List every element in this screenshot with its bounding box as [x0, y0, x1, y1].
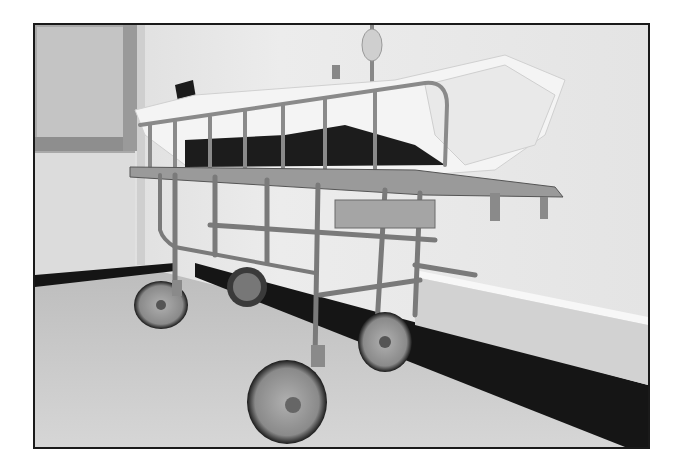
wheel-back-right [358, 312, 412, 372]
wheel-front-right [247, 360, 327, 444]
caster-fork [311, 345, 325, 367]
window [35, 25, 139, 153]
gurney-photo [35, 25, 648, 447]
wall-outlet [332, 65, 340, 79]
caster-fork [172, 280, 182, 296]
door-frame [137, 25, 145, 265]
photo-frame: Black-and-white photograph of an empty o… [33, 23, 650, 449]
frame-bracket [540, 197, 548, 219]
frame-bracket [490, 193, 500, 221]
wheel-back-left [227, 267, 267, 307]
tray [335, 200, 435, 228]
